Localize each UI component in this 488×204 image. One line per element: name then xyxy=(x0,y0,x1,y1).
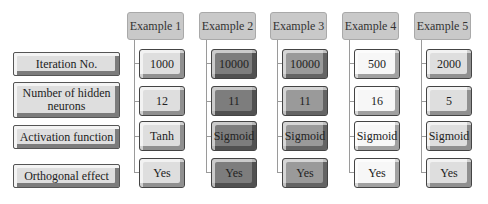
example-5-orthogonal: Yes xyxy=(426,158,472,188)
example-5-activation: Sigmoid xyxy=(426,121,472,151)
example-3-activation: Sigmoid xyxy=(282,121,328,151)
example-4-activation: Sigmoid xyxy=(354,121,400,151)
example-1-header: Example 1 xyxy=(127,12,184,40)
example-2-activation: Sigmoid xyxy=(211,121,257,151)
example-2-orthogonal: Yes xyxy=(211,158,257,188)
example-3-header: Example 3 xyxy=(270,12,327,40)
example-4-orthogonal: Yes xyxy=(354,158,400,188)
example-1-hidden-neurons: 12 xyxy=(139,86,185,116)
example-1-iteration: 1000 xyxy=(139,49,185,79)
example-5-hidden-neurons: 5 xyxy=(426,86,472,116)
row-label-iteration: Iteration No. xyxy=(13,52,120,76)
row-label-activation: Activation function xyxy=(13,125,120,149)
example-5-header: Example 5 xyxy=(414,12,471,40)
row-label-hidden-neurons: Number of hidden neurons xyxy=(13,82,120,118)
connector-line xyxy=(134,40,135,172)
example-4-iteration: 500 xyxy=(354,49,400,79)
example-2-iteration: 10000 xyxy=(211,49,257,79)
row-label-orthogonal: Orthogonal effect xyxy=(13,164,120,188)
example-3-orthogonal: Yes xyxy=(282,158,328,188)
example-2-header: Example 2 xyxy=(199,12,256,40)
example-3-hidden-neurons: 11 xyxy=(282,86,328,116)
example-1-orthogonal: Yes xyxy=(139,158,185,188)
example-3-iteration: 10000 xyxy=(282,49,328,79)
example-4-header: Example 4 xyxy=(342,12,399,40)
example-2-hidden-neurons: 11 xyxy=(211,86,257,116)
example-1-activation: Tanh xyxy=(139,121,185,151)
example-5-iteration: 2000 xyxy=(426,49,472,79)
example-4-hidden-neurons: 16 xyxy=(354,86,400,116)
